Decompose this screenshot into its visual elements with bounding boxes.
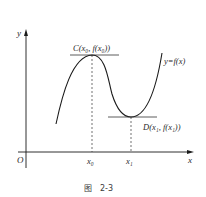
y-axis-label: y bbox=[16, 28, 21, 38]
function-curve bbox=[56, 53, 162, 124]
caption-number: 2-3 bbox=[100, 184, 113, 193]
point-c-label: C(x₀, f(x₀)) bbox=[73, 43, 110, 53]
point-d-label: D(x₁, f(x₁)) bbox=[142, 122, 181, 132]
curve-label: y=f(x) bbox=[163, 56, 185, 66]
x-axis-arrow-icon bbox=[187, 150, 194, 154]
caption-prefix: 图 bbox=[84, 184, 92, 193]
x1-tick-label: x₁ bbox=[125, 156, 133, 166]
x-axis-label: x bbox=[187, 155, 192, 165]
origin-label: O bbox=[17, 155, 24, 165]
y-axis-arrow-icon bbox=[24, 29, 28, 36]
function-graph: y x O C(x₀, f(x₀)) D(x₁, f(x₁)) y=f(x) x… bbox=[0, 0, 206, 197]
x0-tick-label: x₀ bbox=[86, 156, 94, 166]
